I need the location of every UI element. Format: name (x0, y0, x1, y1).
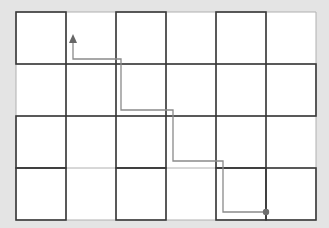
start-dot-icon (263, 209, 269, 215)
grid-diagram (0, 0, 329, 228)
